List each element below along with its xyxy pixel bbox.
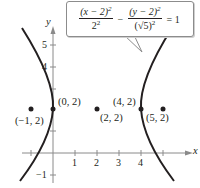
point-label-5-2: (5, 2) (146, 113, 169, 124)
minus-sign: − (118, 14, 124, 25)
y-axis-label: y (46, 17, 51, 28)
x-tick-2: 2 (94, 158, 99, 168)
x-tick-3: 3 (116, 158, 121, 168)
x-axis-arrow-icon (185, 151, 193, 156)
equals-one: = 1 (167, 14, 180, 25)
point-label-neg1-2: (−1, 2) (15, 116, 44, 127)
point-label-4-2: (4, 2) (113, 97, 136, 108)
hyperbola-left-branch (20, 28, 53, 181)
callout-pointer (124, 35, 142, 52)
data-points (29, 107, 166, 112)
point-neg1-2 (29, 107, 34, 112)
point-label-2-2: (2, 2) (100, 113, 123, 124)
denominator-y: (√5) (135, 20, 152, 31)
point-0-2 (51, 107, 56, 112)
point-5-2 (161, 107, 166, 112)
numerator-y: (y − 2) (129, 7, 157, 18)
y-tick-4: 4 (42, 62, 47, 72)
numerator-x: (x − 2) (80, 7, 108, 18)
x-axis-label: x (193, 146, 198, 157)
x-tick-1: 1 (72, 158, 77, 168)
x-tick-4: 4 (138, 158, 143, 168)
hyperbola-equation: (x − 2)2 22 − (y − 2)2 (√5)2 = 1 (67, 2, 193, 36)
fraction-y: (y − 2)2 (√5)2 (128, 6, 161, 31)
y-tick-neg1: −1 (36, 170, 47, 180)
y-tick-5: 5 (42, 40, 47, 50)
point-4-2 (139, 107, 144, 112)
fraction-x: (x − 2)2 22 (79, 6, 112, 31)
point-label-0-2: (0, 2) (58, 97, 81, 108)
y-axis-arrow-icon (51, 26, 56, 34)
equation-callout: (x − 2)2 22 − (y − 2)2 (√5)2 = 1 (66, 1, 194, 37)
point-2-2 (95, 107, 100, 112)
hyperbola-right-branch (141, 28, 174, 181)
